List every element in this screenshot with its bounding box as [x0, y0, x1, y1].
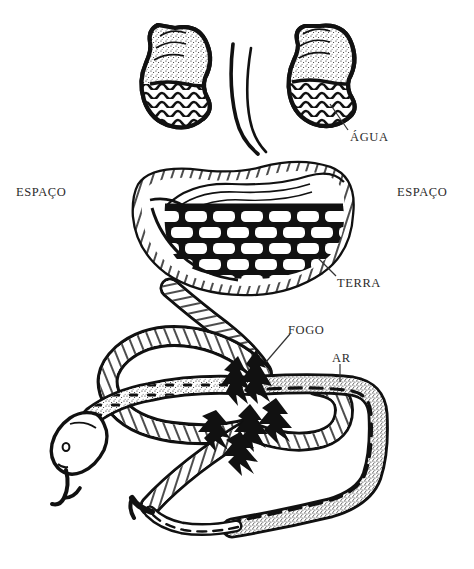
- agua-kidney-left: [140, 20, 220, 134]
- agua-kidney-right: [285, 18, 365, 132]
- label-agua: ÁGUA: [350, 131, 389, 144]
- label-ar: AR: [332, 352, 351, 365]
- figure-illustration: [0, 0, 474, 569]
- fogo-leader-line: [266, 334, 290, 362]
- label-fogo: FOGO: [288, 324, 324, 337]
- label-espaco-left: ESPAÇO: [16, 186, 66, 199]
- serpent-body: [51, 288, 378, 531]
- ar-serpent-band: [232, 384, 378, 528]
- alchemical-elements-figure: ESPAÇO ESPAÇO ÁGUA TERRA FOGO AR: [0, 0, 474, 569]
- serpent-head: [51, 413, 107, 505]
- terra-vessel: [134, 163, 355, 294]
- label-terra: TERRA: [337, 277, 381, 290]
- label-espaco-right: ESPAÇO: [397, 186, 447, 199]
- vessel-neck-tube: [231, 44, 266, 154]
